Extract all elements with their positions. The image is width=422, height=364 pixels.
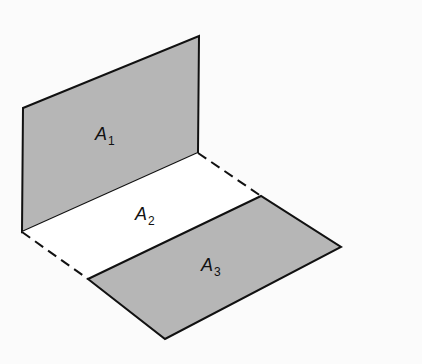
area-diagram: A1 A2 A3	[0, 0, 422, 364]
